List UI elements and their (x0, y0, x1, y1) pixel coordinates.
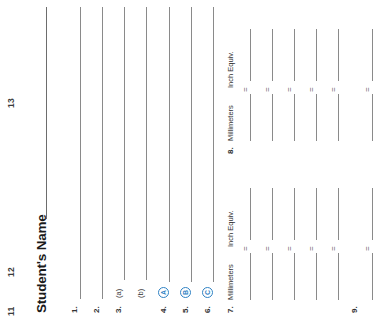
equals-sign-7-4: = (307, 246, 316, 251)
conversion-row-8-4: = (306, 13, 318, 141)
question-number-8: 8. (226, 147, 235, 154)
question-number-2: 2. (92, 306, 101, 313)
answer-rule-4[interactable] (169, 7, 170, 282)
edge-page-numbers: 11 12 13 (0, 0, 26, 322)
inch-blank-7-2[interactable] (272, 188, 273, 240)
choice-circle-b[interactable]: B (180, 287, 191, 298)
equals-sign-7-1: = (241, 246, 250, 251)
equals-sign-8-2: = (263, 87, 272, 92)
mm-blank-7-4[interactable] (316, 253, 317, 300)
page-number-13: 13 (6, 98, 16, 108)
equals-sign-7-3: = (285, 246, 294, 251)
answer-rule-6[interactable] (213, 7, 214, 282)
column-header-millimeters-7: Millimeters (226, 264, 235, 300)
answer-rule-1[interactable] (80, 7, 81, 299)
inch-blank-8-2[interactable] (272, 29, 273, 81)
conversion-row-7-2: = (262, 172, 274, 300)
question-row-1: 1. (70, 7, 82, 313)
mm-blank-8-4[interactable] (316, 94, 317, 141)
mm-blank-7-3[interactable] (294, 253, 295, 300)
question-row-5: 5. B (181, 7, 193, 313)
conversion-row-8-1: = (240, 13, 252, 141)
question-row-3b: (b) (136, 7, 148, 313)
question-number-9: 9. (350, 306, 359, 313)
choice-circle-a[interactable]: A (158, 287, 169, 298)
inch-blank-7-5[interactable] (338, 188, 339, 240)
question-number-5: 5. (181, 306, 190, 313)
question-row-6: 6. C (203, 7, 215, 313)
mm-blank-8-3[interactable] (294, 94, 295, 141)
mm-blank-8-5[interactable] (338, 94, 339, 141)
mm-blank-7-1[interactable] (250, 253, 251, 300)
question-number-4: 4. (159, 306, 168, 313)
conversion-row-8-2: = (262, 13, 274, 141)
question-sublabel-3a: (a) (114, 289, 123, 298)
conversion-row-9-2: = (362, 13, 374, 141)
inch-blank-7-4[interactable] (316, 188, 317, 240)
answer-rule-3b[interactable] (146, 7, 147, 280)
question-row-2: 2. (92, 7, 104, 313)
question-number-6: 6. (203, 306, 212, 313)
student-name-input-rule[interactable] (46, 7, 47, 219)
equals-sign-9-1: = (363, 246, 372, 251)
answer-rule-3a[interactable] (124, 7, 125, 280)
equals-sign-9-2: = (363, 87, 372, 92)
answer-rule-5[interactable] (191, 7, 192, 282)
conversion-row-7-1: = (240, 172, 252, 300)
question-sublabel-3b: (b) (136, 289, 145, 298)
question-row-3a: 3. (a) (114, 7, 126, 313)
conversion-row-7-5: = (328, 172, 340, 300)
question-row-4: 4. A (159, 7, 171, 313)
equals-sign-8-5: = (329, 87, 338, 92)
equals-sign-7-2: = (263, 246, 272, 251)
mm-blank-7-2[interactable] (272, 253, 273, 300)
inch-blank-8-1[interactable] (250, 29, 251, 81)
mm-blank-8-1[interactable] (250, 94, 251, 141)
column-header-inch-equiv-7: Inch Equiv. (226, 210, 235, 247)
mm-blank-7-5[interactable] (338, 253, 339, 300)
equals-sign-8-3: = (285, 87, 294, 92)
worksheet-body: Student's Name 1. 2. 3. (a) (b) (26, 0, 332, 322)
page-title: Student's Name (34, 214, 49, 313)
choice-circle-c[interactable]: C (202, 287, 213, 298)
column-header-millimeters-8: Millimeters (226, 105, 235, 141)
column-header-inch-equiv-8: Inch Equiv. (226, 51, 235, 88)
conversion-row-9-1: = (362, 172, 374, 300)
mm-blank-9-1[interactable] (372, 253, 373, 300)
question-number-1: 1. (70, 306, 79, 313)
inch-blank-9-2[interactable] (372, 29, 373, 81)
mm-blank-8-2[interactable] (272, 94, 273, 141)
mm-blank-9-2[interactable] (372, 94, 373, 141)
inch-blank-8-4[interactable] (316, 29, 317, 81)
page-number-12: 12 (6, 267, 16, 277)
question-number-3: 3. (114, 306, 123, 313)
conversion-row-7-3: = (284, 172, 296, 300)
question-number-7: 7. (226, 306, 235, 313)
answer-rule-2[interactable] (102, 7, 103, 299)
conversion-row-8-5: = (328, 13, 340, 141)
inch-blank-7-1[interactable] (250, 188, 251, 240)
page-number-11: 11 (6, 307, 16, 316)
inch-blank-7-3[interactable] (294, 188, 295, 240)
inch-blank-9-1[interactable] (372, 188, 373, 240)
inch-blank-8-3[interactable] (294, 29, 295, 81)
conversion-row-7-4: = (306, 172, 318, 300)
equals-sign-8-4: = (307, 87, 316, 92)
inch-blank-8-5[interactable] (338, 29, 339, 81)
equals-sign-8-1: = (241, 87, 250, 92)
conversion-row-8-3: = (284, 13, 296, 141)
equals-sign-7-5: = (329, 246, 338, 251)
